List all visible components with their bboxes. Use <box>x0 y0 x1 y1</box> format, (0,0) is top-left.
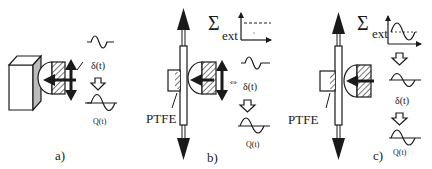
plate-motion-arrow-down <box>332 125 345 160</box>
delta-signal-label: δ(t) <box>395 95 409 107</box>
sigma-symbol: Σ <box>357 12 369 34</box>
down-arrow-icon <box>392 113 407 125</box>
coupling-symbol: ⇔ <box>228 75 239 87</box>
delta-signal-label: δ(t) <box>91 60 105 72</box>
panel-c: PTFE Σ ext δ(t) Q(t) c) <box>288 12 421 163</box>
sigma-subscript: ext <box>222 28 238 43</box>
down-arrow-icon <box>91 78 105 90</box>
ptfe-pad <box>320 71 335 91</box>
panel-a: δ(t) Q(t) a) <box>9 36 117 163</box>
sliding-plate <box>180 46 187 125</box>
ptfe-label: PTFE <box>146 111 176 126</box>
vertical-motion-arrow <box>216 60 228 101</box>
charge-signal-label: Q(t) <box>93 117 107 126</box>
sinusoidal-excitation-plot <box>388 16 421 44</box>
panel-caption-b: b) <box>207 150 218 165</box>
delta-signal-label: δ(t) <box>243 81 257 93</box>
plate-motion-arrow-up <box>332 12 345 46</box>
sigma-subscript: ext <box>372 26 388 41</box>
ptfe-leader-line <box>326 93 330 108</box>
sliding-plate <box>335 46 342 125</box>
step-excitation-plot <box>241 13 271 40</box>
ptfe-label: PTFE <box>288 112 318 127</box>
down-arrow-icon <box>240 100 255 112</box>
charge-signal-label: Q(t) <box>393 148 407 157</box>
sine-wave-icon <box>87 36 114 48</box>
panel-caption-a: a) <box>55 148 65 163</box>
ptfe-leader-line <box>172 93 177 108</box>
ptfe-pad <box>168 70 180 91</box>
panel-caption-c: c) <box>373 148 383 163</box>
fixed-block <box>9 56 41 110</box>
plate-motion-arrow-up <box>177 8 190 46</box>
sigma-symbol: Σ <box>208 12 220 34</box>
charge-signal-label: Q(t) <box>246 140 260 149</box>
down-arrow-icon <box>392 53 407 65</box>
plate-motion-arrow-down <box>177 125 190 160</box>
triboelectric-mode-diagram: δ(t) Q(t) a) PTFE <box>0 0 432 169</box>
sine-wave-icon <box>241 57 270 69</box>
panel-b: PTFE ⇔ Σ ext δ(t) <box>146 8 271 165</box>
